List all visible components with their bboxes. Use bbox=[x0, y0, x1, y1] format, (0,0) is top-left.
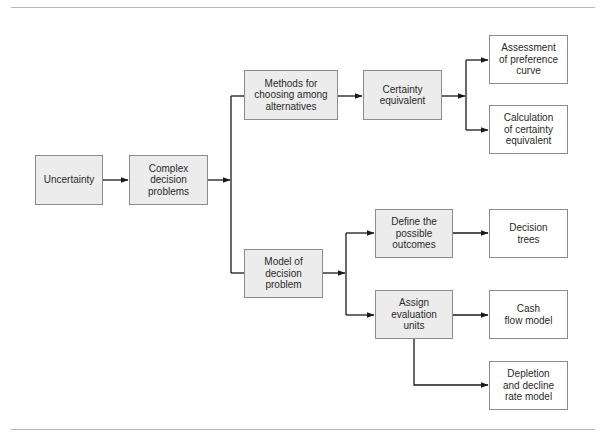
node-decision-trees: Decision trees bbox=[489, 209, 568, 258]
node-uncertainty: Uncertainty bbox=[35, 155, 103, 205]
node-complex-decision-problems: Complex decision problems bbox=[129, 155, 208, 205]
node-calculation-label: Calculation of certainty equivalent bbox=[504, 112, 553, 147]
node-model-of-decision-problem: Model of decision problem bbox=[244, 249, 323, 298]
node-complex-label: Complex decision problems bbox=[148, 163, 189, 198]
node-methods-label: Methods for choosing among alternatives bbox=[254, 78, 327, 113]
node-model-label: Model of decision problem bbox=[264, 256, 302, 291]
node-uncertainty-label: Uncertainty bbox=[44, 174, 95, 186]
node-assessment-label: Assessment of preference curve bbox=[499, 42, 558, 77]
node-calculation-of-certainty-equivalent: Calculation of certainty equivalent bbox=[489, 105, 568, 154]
node-methods-for-choosing: Methods for choosing among alternatives bbox=[244, 70, 338, 120]
node-define-label: Define the possible outcomes bbox=[391, 216, 437, 251]
node-depletion-and-decline-rate-model: Depletion and decline rate model bbox=[489, 361, 568, 410]
node-depletion-label: Depletion and decline rate model bbox=[503, 368, 554, 403]
node-certainty-label: Certainty equivalent bbox=[380, 84, 426, 107]
node-assign-label: Assign evaluation units bbox=[391, 297, 437, 332]
node-cashflow-label: Cash flow model bbox=[505, 303, 553, 326]
node-trees-label: Decision trees bbox=[509, 222, 547, 245]
node-define-possible-outcomes: Define the possible outcomes bbox=[375, 209, 453, 258]
node-certainty-equivalent: Certainty equivalent bbox=[363, 70, 442, 120]
node-assessment-of-preference-curve: Assessment of preference curve bbox=[489, 35, 568, 84]
node-cash-flow-model: Cash flow model bbox=[489, 290, 568, 339]
node-assign-evaluation-units: Assign evaluation units bbox=[375, 290, 453, 339]
edge-assign-depletion bbox=[414, 339, 488, 385]
